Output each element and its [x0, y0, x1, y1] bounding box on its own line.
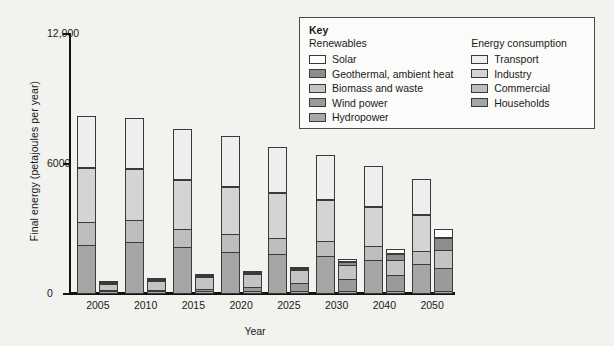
- bar-segment: [221, 136, 240, 187]
- renewables-bar-2040[interactable]: [386, 249, 405, 293]
- bar-segment: [412, 179, 431, 215]
- legend-item[interactable]: Transport: [471, 52, 585, 67]
- consumption-bar-2040[interactable]: [364, 166, 383, 293]
- bar-group-2005: [77, 33, 118, 293]
- x-tick-label: 2015: [182, 299, 205, 311]
- legend-swatch-icon: [471, 98, 488, 107]
- bar-segment: [434, 268, 453, 292]
- bar-segment: [316, 155, 335, 199]
- bar-segment: [243, 291, 262, 294]
- bar-segment: [77, 168, 96, 223]
- bar-segment: [316, 241, 335, 257]
- bar-segment: [338, 265, 357, 280]
- bar-segment: [77, 245, 96, 294]
- legend-item[interactable]: Households: [471, 96, 585, 111]
- bar-segment: [221, 234, 240, 252]
- bar-segment: [434, 229, 453, 238]
- bar-segment: [386, 275, 405, 292]
- bar-segment: [316, 256, 335, 294]
- x-tick-label: 2030: [325, 299, 348, 311]
- legend-item[interactable]: Commercial: [471, 81, 585, 96]
- renewables-bar-2015[interactable]: [195, 274, 214, 293]
- legend-column-consumption: Energy consumptionTransportIndustryComme…: [471, 37, 585, 125]
- bar-segment: [173, 129, 192, 180]
- x-tick-label: 2040: [373, 299, 396, 311]
- bar-segment: [221, 187, 240, 236]
- legend-swatch-icon: [471, 84, 488, 93]
- consumption-bar-2020[interactable]: [221, 136, 240, 293]
- renewables-bar-2010[interactable]: [147, 278, 166, 293]
- legend-title: Key: [309, 24, 585, 36]
- x-tick-label: 2050: [420, 299, 443, 311]
- consumption-bar-2015[interactable]: [173, 129, 192, 293]
- legend-heading: Energy consumption: [471, 37, 585, 49]
- bar-segment: [173, 247, 192, 294]
- renewables-bar-2030[interactable]: [338, 259, 357, 293]
- bar-segment: [434, 291, 453, 294]
- legend-swatch-icon: [309, 84, 326, 93]
- legend-heading: Renewables: [309, 37, 471, 49]
- renewables-bar-2020[interactable]: [243, 271, 262, 293]
- x-tick-label: 2020: [229, 299, 252, 311]
- bar-segment: [434, 250, 453, 270]
- bar-segment: [268, 193, 287, 239]
- legend-column-renewables: RenewablesSolarGeothermal, ambient heatB…: [309, 37, 471, 125]
- y-tick-label: 0: [47, 287, 56, 299]
- legend-item[interactable]: Industry: [471, 67, 585, 82]
- y-axis-title: Final energy (petajoules per year): [28, 41, 40, 281]
- x-tick-label: 2005: [86, 299, 109, 311]
- legend-item-label: Industry: [494, 68, 531, 80]
- bar-segment: [412, 264, 431, 294]
- legend-item[interactable]: Geothermal, ambient heat: [309, 67, 471, 82]
- bar-segment: [268, 147, 287, 194]
- legend-swatch-icon: [471, 55, 488, 64]
- legend-swatch-icon: [309, 113, 326, 122]
- legend-item-label: Commercial: [494, 82, 550, 94]
- y-tick: [63, 293, 70, 295]
- legend-swatch-icon: [309, 98, 326, 107]
- bar-segment: [290, 270, 309, 284]
- bar-segment: [173, 229, 192, 249]
- bar-group-2015: [173, 33, 214, 293]
- chart-figure: Final energy (petajoules per year) Year …: [0, 0, 614, 346]
- legend-item-label: Hydropower: [332, 111, 389, 123]
- bar-group-2010: [125, 33, 166, 293]
- bar-segment: [364, 260, 383, 294]
- x-tick-label: 2025: [277, 299, 300, 311]
- bar-segment: [364, 246, 383, 261]
- consumption-bar-2010[interactable]: [125, 118, 144, 293]
- y-tick-label: 12,000: [47, 27, 56, 39]
- renewables-bar-2025[interactable]: [290, 267, 309, 293]
- legend-item[interactable]: Hydropower: [309, 110, 471, 125]
- bar-segment: [412, 251, 431, 265]
- legend-item-label: Geothermal, ambient heat: [332, 68, 453, 80]
- legend-item[interactable]: Solar: [309, 52, 471, 67]
- consumption-bar-2005[interactable]: [77, 116, 96, 293]
- consumption-bar-2025[interactable]: [268, 147, 287, 293]
- legend-item[interactable]: Wind power: [309, 96, 471, 111]
- consumption-bar-2030[interactable]: [316, 155, 335, 293]
- bar-segment: [386, 260, 405, 276]
- legend-columns: RenewablesSolarGeothermal, ambient heatB…: [309, 37, 585, 125]
- renewables-bar-2005[interactable]: [99, 281, 118, 293]
- bar-segment: [147, 291, 166, 294]
- bar-segment: [268, 238, 287, 255]
- legend-item[interactable]: Biomass and waste: [309, 81, 471, 96]
- bar-segment: [386, 291, 405, 294]
- consumption-bar-2050[interactable]: [412, 179, 431, 293]
- bar-segment: [77, 222, 96, 246]
- legend-swatch-icon: [309, 69, 326, 78]
- bar-segment: [364, 207, 383, 247]
- bar-segment: [195, 291, 214, 294]
- legend-item-label: Biomass and waste: [332, 82, 423, 94]
- bar-segment: [125, 118, 144, 169]
- legend-box: Key RenewablesSolarGeothermal, ambient h…: [299, 17, 595, 129]
- legend-item-label: Solar: [332, 53, 357, 65]
- bar-segment: [290, 291, 309, 294]
- legend-item-label: Wind power: [332, 97, 387, 109]
- renewables-bar-2050[interactable]: [434, 229, 453, 293]
- bar-segment: [243, 274, 262, 287]
- bar-segment: [316, 200, 335, 242]
- bar-group-2020: [221, 33, 262, 293]
- legend-swatch-icon: [309, 55, 326, 64]
